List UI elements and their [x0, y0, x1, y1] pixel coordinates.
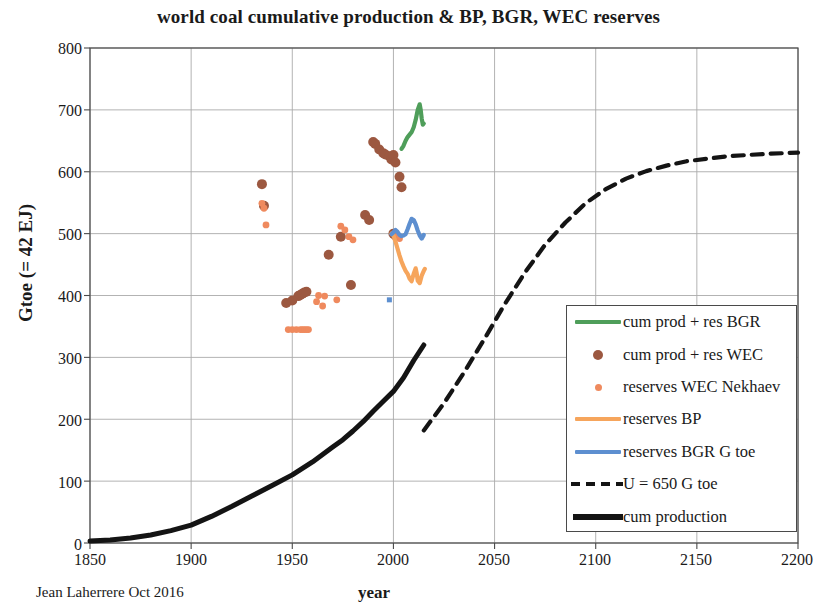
legend-swatch — [571, 474, 623, 494]
data-point — [346, 280, 356, 290]
legend-label: reserves BGR G toe — [623, 442, 755, 462]
legend-label: reserves WEC Nekhaev — [623, 377, 780, 397]
series-reserves-bp — [391, 234, 424, 284]
legend-item-reserves-bgr-g-toe[interactable]: reserves BGR G toe — [567, 436, 796, 468]
data-point — [341, 227, 348, 234]
legend-label: cum production — [623, 507, 727, 527]
legend-item-cum-prod-res-bgr[interactable]: cum prod + res BGR — [567, 306, 796, 338]
data-point — [387, 297, 392, 302]
legend-item-u-650-g-toe[interactable]: U = 650 G toe — [567, 468, 796, 500]
legend-marker — [575, 320, 621, 324]
legend-marker — [593, 350, 603, 360]
legend-swatch — [571, 312, 623, 332]
legend-label: cum prod + res BGR — [623, 312, 761, 332]
legend-label: reserves BP — [623, 409, 701, 429]
data-point — [313, 298, 320, 305]
legend-item-cum-prod-res-wec[interactable]: cum prod + res WEC — [567, 338, 796, 370]
legend-swatch — [571, 507, 623, 527]
series-cum-production — [90, 345, 424, 541]
series-path — [90, 345, 424, 541]
legend-marker — [573, 514, 623, 520]
data-point — [324, 250, 334, 260]
data-point — [261, 205, 268, 212]
data-point — [333, 296, 340, 303]
legend-swatch — [571, 442, 623, 462]
legend-swatch — [571, 345, 623, 365]
data-point — [397, 182, 407, 192]
data-point — [305, 326, 312, 333]
legend-swatch — [571, 409, 623, 429]
legend-marker — [571, 482, 623, 486]
series-path — [402, 104, 424, 149]
legend-marker — [575, 450, 621, 454]
data-point — [350, 236, 357, 243]
data-point — [263, 222, 270, 229]
data-point — [364, 215, 374, 225]
data-point — [319, 303, 326, 310]
data-point — [321, 293, 328, 300]
legend-label: cum prod + res WEC — [623, 345, 763, 365]
data-point — [390, 157, 400, 167]
chart-figure: world coal cumulative production & BP, B… — [0, 0, 817, 612]
data-point — [394, 172, 404, 182]
legend-item-cum-production[interactable]: cum production — [567, 500, 796, 532]
series-reserves-wec-nekhaev — [259, 200, 403, 333]
legend-label: U = 650 G toe — [623, 474, 718, 494]
legend-swatch — [571, 377, 623, 397]
legend-marker — [595, 384, 602, 391]
series-path — [391, 234, 424, 284]
chart-legend: cum prod + res BGRcum prod + res WECrese… — [566, 305, 797, 532]
series-cum-prod-res-wec — [257, 137, 407, 308]
legend-item-reserves-wec-nekhaev[interactable]: reserves WEC Nekhaev — [567, 371, 796, 403]
legend-item-reserves-bp[interactable]: reserves BP — [567, 403, 796, 435]
legend-marker — [575, 417, 621, 421]
series-cum-prod-res-bgr — [402, 104, 424, 149]
data-point — [301, 287, 311, 297]
data-point — [315, 292, 322, 299]
data-point — [257, 179, 267, 189]
